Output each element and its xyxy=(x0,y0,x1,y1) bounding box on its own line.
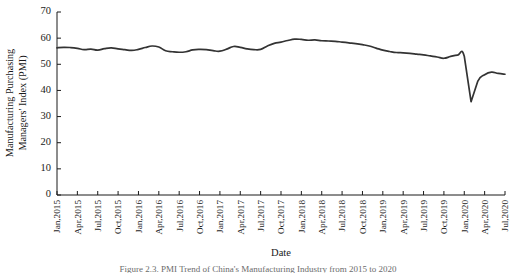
x-tick-label: Apr,2017 xyxy=(236,200,246,235)
y-tick-label: 60 xyxy=(41,32,52,43)
y-tick-label: 10 xyxy=(41,162,52,173)
y-tick-label: 40 xyxy=(41,84,52,95)
y-tick-label: 20 xyxy=(41,136,52,147)
x-tick-label: Apr,2016 xyxy=(154,200,164,235)
y-axis-title-line2: Managers' Index (PMI) xyxy=(17,55,29,150)
y-tick-label: 0 xyxy=(46,188,51,199)
x-tick-label: Jul,2016 xyxy=(175,200,185,232)
x-tick-label: Jan,2020 xyxy=(460,200,470,233)
x-axis: Jan,2015Apr,2015Jul,2015Oct,2015Jan,2016… xyxy=(52,191,510,235)
x-tick-label: Jul,2018 xyxy=(337,200,347,232)
y-tick-label: 50 xyxy=(41,58,52,69)
y-tick-label: 30 xyxy=(41,110,52,121)
y-axis-tick-labels: 010203040506070 xyxy=(41,5,52,199)
x-tick-label: Jan,2018 xyxy=(297,200,307,233)
x-tick-label: Jan,2015 xyxy=(52,200,62,233)
figure-caption: Figure 2.3. PMI Trend of China's Manufac… xyxy=(0,264,516,273)
figure-container: 010203040506070 Jan,2015Apr,2015Jul,2015… xyxy=(0,0,516,273)
x-tick-label: Oct,2016 xyxy=(195,200,205,234)
x-tick-label: Jul,2019 xyxy=(419,200,429,232)
x-tick-label: Apr,2015 xyxy=(73,200,83,235)
x-tick-label: Jul,2017 xyxy=(256,200,266,232)
y-axis-ticks xyxy=(57,12,61,195)
y-axis: 010203040506070 xyxy=(41,5,62,199)
x-tick-label: Apr,2018 xyxy=(317,200,327,235)
y-axis-title: Manufacturing Purchasing Managers' Index… xyxy=(4,49,29,157)
x-axis-title: Date xyxy=(271,247,291,258)
x-tick-label: Oct,2015 xyxy=(113,200,123,234)
x-axis-ticks xyxy=(57,191,505,195)
x-tick-label: Jul,2020 xyxy=(500,200,510,232)
x-tick-label: Apr,2019 xyxy=(399,200,409,235)
x-tick-label: Oct,2018 xyxy=(358,200,368,234)
x-tick-label: Oct,2017 xyxy=(276,200,286,234)
x-tick-label: Apr,2020 xyxy=(480,200,490,235)
x-tick-label: Jan,2019 xyxy=(378,200,388,233)
y-axis-title-line1: Manufacturing Purchasing xyxy=(4,49,15,157)
x-tick-label: Jan,2016 xyxy=(134,200,144,233)
y-tick-label: 70 xyxy=(41,5,52,16)
pmi-line-chart: 010203040506070 Jan,2015Apr,2015Jul,2015… xyxy=(0,0,516,263)
x-tick-label: Oct,2019 xyxy=(439,200,449,234)
x-axis-tick-labels: Jan,2015Apr,2015Jul,2015Oct,2015Jan,2016… xyxy=(52,200,510,235)
x-tick-label: Jul,2015 xyxy=(93,200,103,232)
x-tick-label: Jan,2017 xyxy=(215,200,225,233)
pmi-series-line xyxy=(57,39,505,102)
